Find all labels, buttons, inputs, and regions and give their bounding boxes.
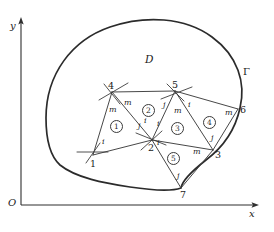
element-badge-1: 1 <box>110 120 123 133</box>
local-label-i-e4: i <box>188 101 191 109</box>
local-label-m-e4: m <box>225 109 233 117</box>
local-label-m-e3: m <box>174 107 182 115</box>
node-label-7: 7 <box>180 190 186 200</box>
local-label-j-e1: j <box>138 122 140 130</box>
region-label-D: D <box>145 54 153 65</box>
node-label-1: 1 <box>90 159 96 169</box>
local-label-i-e3: i <box>157 120 160 128</box>
origin-label: O <box>8 198 16 208</box>
local-label-m-e1: m <box>109 106 117 114</box>
local-label-j-e5: j <box>177 172 179 180</box>
element-badge-3: 3 <box>171 122 184 135</box>
local-label-m-e5: m <box>193 148 201 156</box>
node-label-2: 2 <box>148 143 154 153</box>
element-badge-4: 4 <box>203 116 216 129</box>
local-label-i-e1: i <box>102 138 105 146</box>
node-label-4: 4 <box>108 81 114 91</box>
node-label-3: 3 <box>215 150 221 160</box>
fem-mesh-figure: y x O D Γ 1 2 3 4 5 6 7 1 2 3 4 5 m m i … <box>0 0 274 232</box>
local-label-i-e2: i <box>144 117 147 125</box>
local-label-i-e5: i <box>157 139 160 147</box>
element-badge-5: 5 <box>167 152 180 165</box>
local-label-j-e2: j <box>163 101 165 109</box>
y-axis-label: y <box>10 21 16 31</box>
local-label-j-e4: j <box>211 134 213 142</box>
boundary-label-gamma: Γ <box>243 67 250 77</box>
node-label-5: 5 <box>172 80 178 90</box>
node-label-6: 6 <box>240 105 246 115</box>
x-axis-label: x <box>249 209 255 219</box>
local-label-m-e2: m <box>124 99 132 107</box>
edge-2-3 <box>152 140 213 150</box>
edge-4-5 <box>112 91 175 92</box>
